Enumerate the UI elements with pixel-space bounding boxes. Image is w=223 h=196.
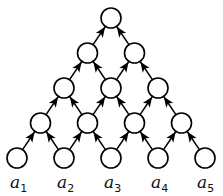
- edge-arrow: [70, 62, 82, 80]
- edge-arrow: [140, 132, 152, 150]
- edge-arrow: [187, 132, 199, 150]
- edge-arrow: [93, 27, 105, 45]
- edge-arrow: [70, 97, 82, 115]
- lattice-node: [172, 113, 192, 133]
- lattice-node: [125, 43, 145, 63]
- lattice-node: [78, 113, 98, 133]
- leaf-labels: a1 a2 a3 a4 a5: [10, 172, 214, 195]
- leaf-label-a3: a3: [104, 172, 121, 195]
- lattice-node: [148, 148, 168, 168]
- edge-arrow: [164, 132, 176, 150]
- edge-arrow: [117, 62, 129, 80]
- edge-arrow: [46, 132, 58, 150]
- leaf-label-a2: a2: [57, 172, 74, 195]
- lattice-node: [54, 78, 74, 98]
- leaf-label-a1: a1: [10, 172, 27, 195]
- lattice-node: [31, 113, 51, 133]
- edge-arrow: [23, 132, 35, 150]
- edge-arrow: [93, 132, 105, 150]
- lattice-node: [101, 148, 121, 168]
- lattice-node: [148, 78, 168, 98]
- lattice-node: [54, 148, 74, 168]
- lattice-node: [101, 78, 121, 98]
- lattice-node: [7, 148, 27, 168]
- edge-arrow: [46, 97, 58, 115]
- lattice-node: [195, 148, 215, 168]
- lattice-node: [125, 113, 145, 133]
- leaf-label-a4: a4: [151, 172, 168, 195]
- nodes: [7, 8, 215, 168]
- edge-arrow: [140, 97, 152, 115]
- edge-arrow: [117, 132, 129, 150]
- edge-arrow: [117, 27, 129, 45]
- edge-arrow: [164, 97, 176, 115]
- edge-arrow: [93, 62, 105, 80]
- lattice-node: [78, 43, 98, 63]
- leaf-label-a5: a5: [197, 172, 214, 195]
- edge-arrow: [140, 62, 152, 80]
- lattice-node: [101, 8, 121, 28]
- edge-arrow: [117, 97, 129, 115]
- edge-arrow: [70, 132, 82, 150]
- lattice-diagram: a1 a2 a3 a4 a5: [0, 0, 223, 196]
- edge-arrow: [93, 97, 105, 115]
